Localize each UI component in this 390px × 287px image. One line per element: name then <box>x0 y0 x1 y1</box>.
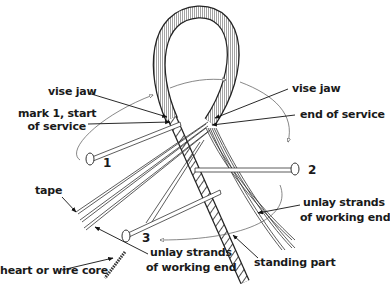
label-vise-jaw-left: vise jaw <box>48 85 97 98</box>
label-vise-jaw-right: vise jaw <box>292 82 341 95</box>
fid-1 <box>86 122 181 165</box>
label-mark-1-line1: mark 1, start <box>18 107 86 120</box>
fid-number-2: 2 <box>308 163 316 177</box>
fid-2 <box>195 163 299 175</box>
fid-number-1: 1 <box>103 156 111 170</box>
label-end-of-service: end of service <box>300 108 385 121</box>
leader-arrows <box>62 89 300 270</box>
label-tape: tape <box>35 184 62 197</box>
label-unlay-left-line2: of working end <box>146 261 236 274</box>
label-heart-core: heart or wire core <box>0 264 108 277</box>
label-unlay-left-line1: unlay strands <box>150 246 232 259</box>
label-unlay-right-line1: unlay strands <box>303 196 385 209</box>
label-mark-1-line2: of service <box>18 120 86 133</box>
fid-3 <box>122 190 221 242</box>
served-eye-loop <box>159 12 233 122</box>
fid-number-3: 3 <box>142 231 150 245</box>
label-standing-part: standing part <box>254 256 336 269</box>
label-unlay-right-line2: of working end <box>300 211 390 224</box>
